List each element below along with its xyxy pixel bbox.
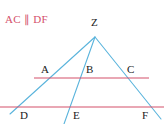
rays-group [10,37,161,124]
geometry-figure: AC ∥ DF Z A B C D E F [0,0,164,124]
vertex-label-f: F [142,110,148,121]
vertex-label-d: D [20,110,28,121]
vertex-label-e: E [73,110,80,121]
ray-ZAD-line [10,37,95,114]
vertex-label-c: C [127,64,134,75]
vertex-label-b: B [86,64,93,75]
parallel-condition-note: AC ∥ DF [5,13,48,25]
vertex-label-a: A [41,64,49,75]
vertex-label-z: Z [91,17,98,28]
